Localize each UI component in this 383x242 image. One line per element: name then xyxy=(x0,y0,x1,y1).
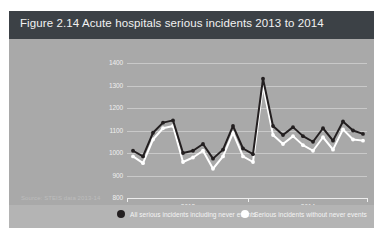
series-data-point xyxy=(351,129,355,133)
chart-plot-area xyxy=(127,63,367,198)
series-data-point xyxy=(181,151,185,155)
figure-header: Figure 2.14 Acute hospitals serious inci… xyxy=(9,11,374,39)
series-data-point xyxy=(161,126,165,130)
series-data-point xyxy=(351,138,355,142)
legend-item-label: Serious incidents without never events xyxy=(254,211,367,218)
series-data-point xyxy=(341,127,345,131)
legend-item-label: All serious incidents including never ev… xyxy=(130,211,256,218)
series-data-point xyxy=(261,77,265,81)
y-axis-tick-label: 1100 xyxy=(109,127,123,134)
series-data-point xyxy=(301,134,305,138)
y-axis-tick-label: 900 xyxy=(112,172,123,179)
series-data-point xyxy=(291,134,295,138)
series-data-point xyxy=(221,148,225,152)
series-data-point xyxy=(171,118,175,122)
series-data-point xyxy=(281,133,285,137)
series-data-point xyxy=(251,160,255,164)
series-data-point xyxy=(311,140,315,144)
series-data-point xyxy=(341,120,345,124)
series-data-point xyxy=(211,167,215,171)
series-data-point xyxy=(251,152,255,156)
series-line xyxy=(133,79,363,159)
series-data-point xyxy=(301,143,305,147)
series-data-point xyxy=(201,142,205,146)
figure-panel: Figure 2.14 Acute hospitals serious inci… xyxy=(9,11,374,228)
series-data-point xyxy=(221,154,225,158)
series-data-point xyxy=(211,157,215,161)
legend-item: Serious incidents without never events xyxy=(241,210,367,218)
y-axis-tick-label: 1000 xyxy=(109,149,123,156)
series-data-point xyxy=(321,126,325,130)
open-circle-icon xyxy=(241,210,249,218)
filled-circle-icon xyxy=(117,210,125,218)
source-note: Source: STEIS data 2013-14 xyxy=(21,195,100,201)
series-data-point xyxy=(361,132,365,136)
series-data-point xyxy=(241,147,245,151)
series-data-point xyxy=(141,161,145,165)
x-axis-tick xyxy=(367,198,368,202)
series-data-point xyxy=(131,149,135,153)
series-data-point xyxy=(161,121,165,125)
series-data-point xyxy=(241,154,245,158)
series-data-point xyxy=(141,154,145,158)
series-line xyxy=(133,86,363,169)
series-data-point xyxy=(361,139,365,143)
series-data-point xyxy=(151,131,155,135)
series-data-point xyxy=(321,135,325,139)
series-data-point xyxy=(181,160,185,164)
legend-item: All serious incidents including never ev… xyxy=(117,210,256,218)
series-data-point xyxy=(271,133,275,137)
y-axis-tick-label: 1400 xyxy=(109,59,123,66)
y-axis-tick-labels: 14001300120011001000900800 xyxy=(95,63,123,198)
x-axis-line xyxy=(127,198,367,199)
series-data-point xyxy=(311,149,315,153)
x-axis-tick xyxy=(248,198,249,202)
chart-legend: All serious incidents including never ev… xyxy=(9,205,374,228)
series-data-point xyxy=(331,139,335,143)
series-data-point xyxy=(281,142,285,146)
series-data-point xyxy=(191,156,195,160)
series-data-point xyxy=(291,125,295,129)
series-data-point xyxy=(271,124,275,128)
series-data-point xyxy=(201,149,205,153)
series-data-point xyxy=(231,124,235,128)
y-axis-tick-label: 800 xyxy=(112,194,123,201)
chart-series-layer xyxy=(127,63,367,198)
series-data-point xyxy=(331,148,335,152)
x-axis-tick xyxy=(127,198,128,202)
chart-plot-body: 14001300120011001000900800 Source: STEIS… xyxy=(9,39,374,205)
y-axis-tick-label: 1300 xyxy=(109,82,123,89)
figure-title: Figure 2.14 Acute hospitals serious inci… xyxy=(20,17,324,29)
y-axis-tick-label: 1200 xyxy=(109,104,123,111)
series-data-point xyxy=(191,149,195,153)
series-data-point xyxy=(131,154,135,158)
